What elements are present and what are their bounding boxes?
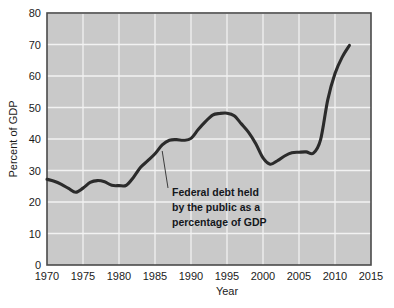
x-tick-2000: 2000 (251, 270, 275, 282)
x-tick-1995: 1995 (215, 270, 239, 282)
y-tick-20: 20 (29, 196, 41, 208)
y-tick-10: 10 (29, 228, 41, 240)
y-tick-70: 70 (29, 39, 41, 51)
y-tick-80: 80 (29, 7, 41, 19)
x-axis-title: Year (216, 285, 239, 297)
y-tick-30: 30 (29, 165, 41, 177)
annotation-line-1: Federal debt held (172, 186, 259, 198)
annotation-line-2: by the public as a (172, 201, 260, 213)
x-tick-1970: 1970 (35, 270, 59, 282)
annotation-line-3: percentage of GDP (172, 216, 267, 228)
x-tick-2010: 2010 (323, 270, 347, 282)
debt-to-gdp-line-chart: 01020304050607080 1970197519801985199019… (0, 0, 394, 308)
chart-figure: 01020304050607080 1970197519801985199019… (0, 0, 394, 308)
x-tick-1980: 1980 (107, 270, 131, 282)
y-axis-title: Percent of GDP (7, 100, 19, 177)
x-tick-2005: 2005 (287, 270, 311, 282)
y-axis-tick-labels: 01020304050607080 (29, 7, 41, 271)
y-tick-60: 60 (29, 70, 41, 82)
y-tick-40: 40 (29, 133, 41, 145)
x-tick-1985: 1985 (143, 270, 167, 282)
x-tick-2015: 2015 (359, 270, 383, 282)
x-tick-1990: 1990 (179, 270, 203, 282)
x-tick-1975: 1975 (71, 270, 95, 282)
annotation-label: Federal debt held by the public as a per… (172, 186, 267, 228)
y-tick-50: 50 (29, 102, 41, 114)
